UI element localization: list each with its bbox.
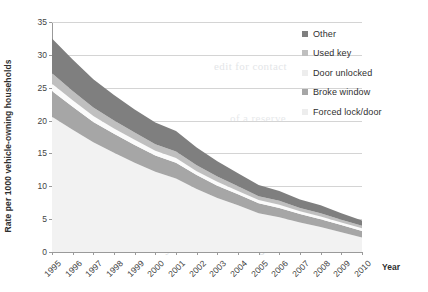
y-tick-mark: [49, 55, 52, 56]
x-tick-mark: [93, 252, 94, 255]
x-axis-line: [52, 252, 362, 253]
x-tick-mark: [321, 252, 322, 255]
x-tick-mark: [135, 252, 136, 255]
x-tick-label: 2008: [311, 258, 332, 279]
y-tick-label: 10: [38, 181, 47, 191]
x-tick-mark: [362, 252, 363, 255]
x-tick-label: 1998: [104, 258, 125, 279]
legend-swatch-icon: [302, 50, 308, 56]
legend-label: Used key: [313, 48, 351, 58]
chart-legend: OtherUsed keyDoor unlockedBroke windowFo…: [302, 24, 426, 122]
x-tick-label: 1996: [63, 258, 84, 279]
y-tick-label: 20: [38, 116, 47, 126]
y-tick-mark: [49, 22, 52, 23]
legend-label: Other: [313, 29, 336, 39]
x-tick-label: 1997: [83, 258, 104, 279]
legend-item[interactable]: Door unlocked: [302, 63, 426, 83]
y-tick-label: 35: [38, 17, 47, 27]
x-tick-label: 2005: [249, 258, 270, 279]
x-tick-mark: [114, 252, 115, 255]
x-tick-label: 1995: [42, 258, 63, 279]
x-tick-mark: [73, 252, 74, 255]
y-tick-mark: [49, 153, 52, 154]
x-tick-label: 2010: [352, 258, 373, 279]
y-tick-mark: [49, 121, 52, 122]
chart-root: of a reserve edit for contact of ICO for…: [0, 0, 428, 292]
y-tick-label: 25: [38, 83, 47, 93]
y-tick-mark: [49, 219, 52, 220]
x-tick-mark: [238, 252, 239, 255]
x-tick-label: 2007: [290, 258, 311, 279]
legend-item[interactable]: Other: [302, 24, 426, 44]
x-tick-mark: [279, 252, 280, 255]
x-tick-mark: [176, 252, 177, 255]
legend-swatch-icon: [302, 31, 308, 37]
y-tick-label: 5: [42, 214, 47, 224]
x-tick-mark: [300, 252, 301, 255]
x-tick-label: 2000: [145, 258, 166, 279]
legend-swatch-icon: [302, 109, 308, 115]
y-tick-label: 15: [38, 148, 47, 158]
y-axis-title: Rate per 1000 vehicle-owning households: [3, 60, 13, 233]
x-tick-label: 2006: [269, 258, 290, 279]
legend-label: Forced lock/door: [313, 107, 382, 117]
x-axis-title: Year: [382, 262, 400, 272]
y-tick-label: 30: [38, 50, 47, 60]
x-tick-mark: [217, 252, 218, 255]
x-tick-mark: [197, 252, 198, 255]
x-tick-mark: [155, 252, 156, 255]
legend-label: Door unlocked: [313, 68, 372, 78]
legend-swatch-icon: [302, 70, 308, 76]
legend-item[interactable]: Forced lock/door: [302, 102, 426, 122]
y-tick-mark: [49, 186, 52, 187]
legend-swatch-icon: [302, 89, 308, 95]
x-tick-mark: [341, 252, 342, 255]
x-tick-label: 2009: [331, 258, 352, 279]
x-tick-label: 2001: [166, 258, 187, 279]
x-tick-mark: [52, 252, 53, 255]
legend-item[interactable]: Broke window: [302, 83, 426, 103]
x-tick-label: 2003: [207, 258, 228, 279]
y-tick-mark: [49, 88, 52, 89]
x-tick-label: 2004: [228, 258, 249, 279]
x-tick-mark: [259, 252, 260, 255]
legend-item[interactable]: Used key: [302, 44, 426, 64]
x-tick-label: 2002: [187, 258, 208, 279]
x-tick-label: 1999: [125, 258, 146, 279]
y-tick-label: 0: [42, 247, 47, 257]
legend-label: Broke window: [313, 87, 370, 97]
